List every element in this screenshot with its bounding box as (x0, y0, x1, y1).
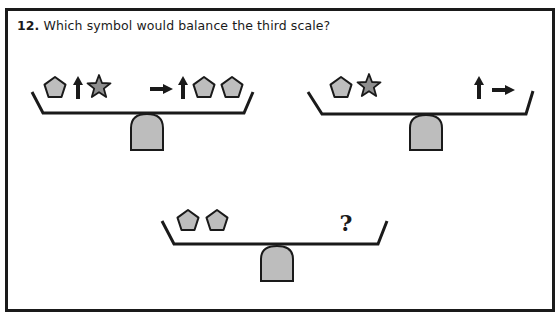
scale-3: ? (162, 210, 387, 281)
unknown-symbol-question-mark: ? (340, 210, 353, 236)
pentagon-icon (45, 77, 66, 97)
scale-3-right-pan: ? (340, 210, 353, 236)
star-icon (358, 74, 381, 96)
pentagon-icon (207, 210, 228, 230)
arrow-up-icon (73, 76, 83, 99)
arrow-right-icon (492, 85, 515, 95)
scale-1-pan (32, 92, 253, 113)
scale-2-fulcrum (410, 115, 442, 150)
pentagon-icon (178, 210, 199, 230)
arrow-right-icon (150, 84, 173, 94)
pentagon-icon (222, 77, 243, 97)
scale-2-right-pan (474, 76, 515, 99)
scale-3-fulcrum (261, 246, 293, 281)
scale-2-left-pan (331, 74, 381, 97)
star-icon (88, 75, 111, 97)
arrow-up-icon (474, 76, 484, 99)
scale-2 (308, 74, 533, 150)
scale-1-left-pan (45, 75, 111, 99)
scale-1-fulcrum (131, 114, 163, 150)
pentagon-icon (331, 77, 352, 97)
pentagon-icon (194, 77, 215, 97)
scale-1-right-pan (150, 76, 243, 99)
scale-1 (32, 75, 253, 150)
scale-3-left-pan (178, 210, 228, 230)
arrow-up-icon (178, 76, 188, 99)
